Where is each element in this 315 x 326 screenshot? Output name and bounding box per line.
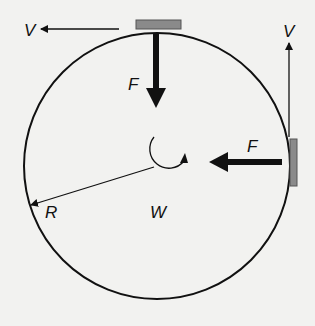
rotation-arc-icon (150, 137, 184, 168)
radius-label: R (45, 203, 57, 222)
disk-diagram: V F V F R W (0, 0, 315, 326)
top-block (136, 20, 181, 29)
force-right-arrow (209, 152, 282, 172)
force-top-label: F (128, 75, 140, 94)
right-block (290, 139, 297, 186)
velocity-right-label: V (283, 22, 296, 41)
force-right-label: F (247, 137, 259, 156)
angular-velocity-label: W (150, 203, 168, 222)
rotation-arrowhead-icon (180, 153, 188, 163)
force-top-arrow (146, 34, 166, 108)
radius-arrow (31, 167, 154, 205)
velocity-top-label: V (24, 21, 37, 40)
